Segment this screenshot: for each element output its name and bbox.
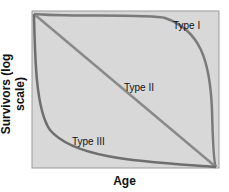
y-axis-label: Survivors (log scale) [0, 39, 27, 149]
x-axis-label: Age [0, 174, 229, 188]
type-1-label: Type I [173, 20, 200, 31]
type-3-label: Type III [72, 136, 105, 147]
type-2-label: Type II [124, 82, 154, 93]
